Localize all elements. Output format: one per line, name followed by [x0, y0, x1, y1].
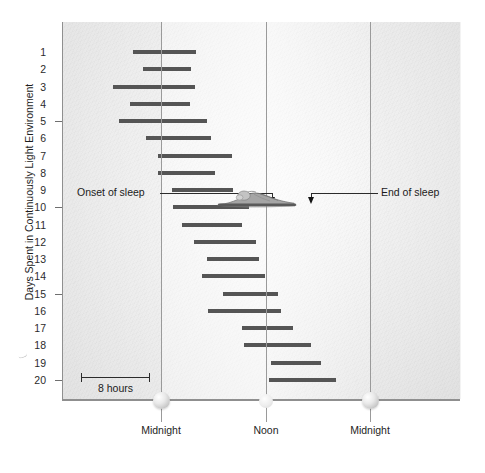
y-axis-label-day-16: 16	[0, 306, 46, 317]
gridline-noon	[266, 22, 267, 422]
scale-bar-cap-right	[149, 373, 150, 382]
y-axis-label-day-18: 18	[0, 340, 46, 351]
scale-bar-label: 8 hours	[81, 382, 150, 394]
panel-strip-4	[371, 22, 461, 399]
sleep-bar-day-8	[158, 171, 215, 175]
x-label-midnight-left: Midnight	[116, 424, 206, 436]
sleep-bar-day-16	[208, 309, 281, 313]
y-axis-title: Days Spent in Continuously Light Environ…	[23, 77, 35, 307]
scale-bar-line	[81, 377, 150, 378]
sleep-bar-day-3	[113, 85, 195, 89]
y-axis-label-day-1: 1	[0, 47, 46, 58]
end-of-sleep-label: End of sleep	[381, 186, 439, 198]
sleep-bar-day-2	[143, 67, 191, 71]
y-axis-label-day-20: 20	[0, 375, 46, 386]
panel-strip-1	[63, 22, 162, 399]
onset-of-sleep-label: Onset of sleep	[77, 186, 145, 198]
moon-icon	[153, 392, 170, 409]
y-axis-label-day-17: 17	[0, 323, 46, 334]
y-axis-line	[62, 22, 63, 400]
sleep-bar-day-1	[133, 50, 196, 54]
sleep-bar-day-10	[173, 205, 249, 209]
x-label-midnight-right: Midnight	[325, 424, 415, 436]
sleep-bar-day-6	[146, 136, 211, 140]
sleep-bar-day-19	[271, 361, 321, 365]
sun-icon	[253, 388, 279, 414]
y-axis-tick-5	[55, 121, 62, 122]
x-label-noon: Noon	[221, 424, 311, 436]
onset-leader-line	[160, 193, 272, 194]
y-axis-tick-20	[55, 380, 62, 381]
sleep-bar-day-17	[242, 326, 293, 330]
sleep-bar-day-15	[223, 292, 278, 296]
plot-area	[62, 22, 460, 400]
sleep-bar-day-9	[172, 188, 233, 192]
sun-core	[259, 394, 273, 408]
y-axis-label-day-2: 2	[0, 64, 46, 75]
sleep-bar-day-4	[130, 102, 190, 106]
sleep-bar-day-14	[202, 274, 265, 278]
y-axis-tick-10	[55, 207, 62, 208]
y-axis-tick-15	[55, 294, 62, 295]
end-leader-line	[311, 193, 378, 194]
scale-bar-cap-left	[81, 373, 82, 382]
sleep-bar-day-18	[244, 343, 311, 347]
gridline-midnight-left	[161, 22, 162, 422]
sleep-bar-day-11	[182, 223, 242, 227]
end-arrow-icon	[308, 197, 314, 204]
gridline-midnight-right	[370, 22, 371, 422]
sleep-bar-day-13	[207, 257, 259, 261]
moon-icon	[362, 392, 379, 409]
y-axis-label-day-19: 19	[0, 358, 46, 369]
sleep-bar-day-5	[119, 119, 207, 123]
onset-arrow-icon	[269, 197, 275, 204]
actogram-figure: 1234567891011121314151617181920 Days Spe…	[0, 0, 485, 473]
sleep-bar-day-7	[158, 154, 232, 158]
sleep-bar-day-20	[269, 378, 336, 382]
sleep-bar-day-12	[194, 240, 256, 244]
